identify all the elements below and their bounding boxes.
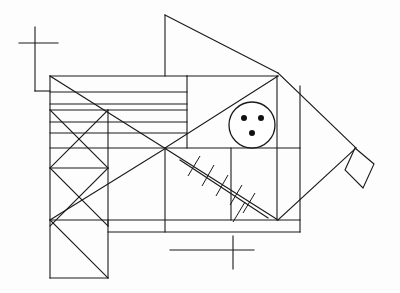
fish-line-drawing [0,0,400,293]
eye-outline [229,102,275,148]
drawing-canvas [0,0,400,293]
eye-dot-bottom [249,130,255,136]
eye-dot-right [258,115,264,121]
eye [229,102,275,148]
canvas-background [0,0,400,293]
eye-dot-left [241,115,247,121]
